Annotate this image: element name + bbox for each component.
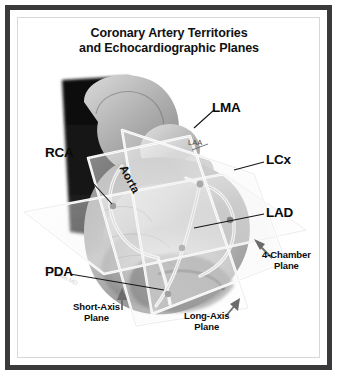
figure-title: Coronary Artery Territories and Echocard…: [30, 26, 308, 56]
label-rca: RCA: [45, 145, 74, 160]
label-lcx: LCx: [266, 152, 291, 167]
leader-lma: [194, 110, 214, 128]
label-lad: LAD: [266, 205, 293, 220]
label-short-axis-plane-line-2: Plane: [84, 312, 109, 323]
leader-lcx: [234, 162, 264, 170]
figure-root: Coronary Artery Territories and Echocard…: [0, 0, 349, 378]
label-pda: PDA: [45, 264, 73, 279]
label-lma: LMA: [212, 100, 241, 115]
label-four-chamber-plane-line-1: 4-Chamber: [262, 249, 311, 260]
figure-title-line-2: and Echocardiographic Planes: [30, 41, 308, 56]
label-four-chamber-plane-line-2: Plane: [274, 260, 299, 271]
label-laa: LAA: [188, 138, 202, 147]
label-short-axis-plane-line-1: Short-Axis: [73, 301, 120, 312]
label-long-axis-plane-line-2: Plane: [194, 321, 219, 332]
label-four-chamber-plane: 4-Chamber Plane: [262, 250, 311, 271]
label-long-axis-plane-line-1: Long-Axis: [184, 310, 230, 321]
label-short-axis-plane: Short-Axis Plane: [73, 302, 120, 323]
figure-title-line-1: Coronary Artery Territories: [90, 26, 247, 40]
label-long-axis-plane: Long-Axis Plane: [184, 311, 230, 332]
